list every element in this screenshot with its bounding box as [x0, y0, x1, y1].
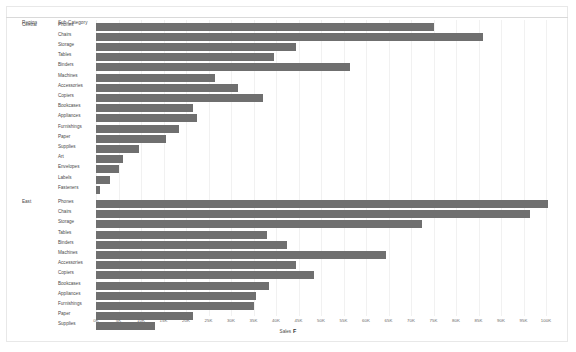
subcategory-label[interactable]: Furnishings — [58, 124, 82, 129]
subcategory-label[interactable]: Labels — [58, 175, 72, 180]
subcategory-label[interactable]: Appliances — [58, 291, 80, 296]
subcategory-label[interactable]: Copiers — [58, 93, 74, 98]
axis-tick-label: 70K — [407, 318, 415, 323]
x-axis: 0K5K10K15K20K25K30K35K40K45K50K55K60K65K… — [96, 318, 546, 328]
axis-tick-label: 90K — [497, 318, 505, 323]
header-divider — [6, 17, 568, 18]
subcategory-label[interactable]: Copiers — [58, 270, 74, 275]
axis-tick-label: 30K — [227, 318, 235, 323]
tableau-bar-chart: Region Sub-Category PhonesChairsStorageT… — [0, 0, 576, 352]
subcategory-label[interactable]: Art — [58, 154, 64, 159]
axis-tick-label: 100K — [541, 318, 551, 323]
subcategory-label[interactable]: Storage — [58, 219, 74, 224]
axis-tick-label: 10K — [137, 318, 145, 323]
axis-title: SalesF — [0, 328, 576, 334]
subcategory-label[interactable]: Paper — [58, 134, 70, 139]
subcategory-label[interactable]: Fasteners — [58, 185, 78, 190]
axis-tick-label: 65K — [385, 318, 393, 323]
axis-tick-label: 45K — [295, 318, 303, 323]
axis-tick-label: 55K — [340, 318, 348, 323]
subcategory-label[interactable]: Tables — [58, 52, 71, 57]
bar-row[interactable] — [96, 183, 546, 196]
subcategory-label[interactable]: Phones — [58, 199, 74, 204]
subcategory-label[interactable]: Paper — [58, 311, 70, 316]
axis-title-text: Sales — [280, 329, 292, 334]
subcategory-label[interactable]: Bookcases — [58, 281, 80, 286]
subcategory-label[interactable]: Supplies — [58, 321, 76, 326]
subcategory-label[interactable]: Accessories — [58, 260, 83, 265]
axis-tick-label: 35K — [250, 318, 258, 323]
axis-tick-label: 95K — [520, 318, 528, 323]
region-group-label: East — [22, 199, 31, 204]
field-chip-icon: F — [291, 328, 296, 334]
subcategory-label[interactable]: Chairs — [58, 209, 71, 214]
axis-tick-label: 15K — [160, 318, 168, 323]
subcategory-label[interactable]: Machines — [58, 73, 78, 78]
plot-area — [96, 20, 546, 316]
subcategory-label[interactable]: Supplies — [58, 144, 76, 149]
axis-tick-label: 25K — [205, 318, 213, 323]
subcategory-label[interactable]: Tables — [58, 230, 71, 235]
axis-tick-label: 75K — [430, 318, 438, 323]
subcategory-label[interactable]: Accessories — [58, 83, 83, 88]
axis-tick-label: 80K — [452, 318, 460, 323]
axis-tick-label: 20K — [182, 318, 190, 323]
axis-tick-label: 5K — [116, 318, 121, 323]
gridline — [546, 20, 547, 316]
subcategory-label[interactable]: Phones — [58, 22, 74, 27]
axis-tick-label: 40K — [272, 318, 280, 323]
axis-tick-label: 0K — [93, 318, 98, 323]
subcategory-label[interactable]: Storage — [58, 42, 74, 47]
subcategory-label[interactable]: Bookcases — [58, 103, 80, 108]
axis-tick-label: 60K — [362, 318, 370, 323]
subcategory-label[interactable]: Machines — [58, 250, 78, 255]
subcategory-label[interactable]: Furnishings — [58, 301, 82, 306]
region-group-label: Central — [22, 22, 37, 27]
axis-tick-label: 85K — [475, 318, 483, 323]
subcategory-label[interactable]: Appliances — [58, 113, 80, 118]
subcategory-label[interactable]: Envelopes — [58, 164, 79, 169]
subcategory-label[interactable]: Binders — [58, 62, 74, 67]
bar[interactable] — [96, 186, 100, 194]
axis-tick-label: 50K — [317, 318, 325, 323]
subcategory-label[interactable]: Chairs — [58, 32, 71, 37]
subcategory-label[interactable]: Binders — [58, 240, 74, 245]
